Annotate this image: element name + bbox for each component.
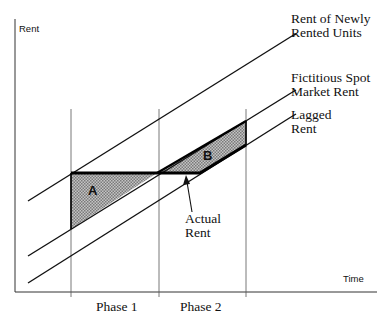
- spot-market-label-line2: Market Rent: [291, 85, 370, 99]
- lagged-rent-label-line1: Lagged: [291, 108, 331, 122]
- y-axis-label: Rent: [19, 24, 39, 34]
- rent-phases-diagram: Rent Time Rent of Newly Rented Units Fic…: [0, 0, 391, 326]
- actual-rent-label-line2: Rent: [185, 226, 221, 240]
- diagram-canvas: [0, 0, 391, 326]
- actual-rent-label: Actual Rent: [185, 212, 221, 240]
- phase-1-label: Phase 1: [96, 300, 138, 314]
- lagged-rent-label-line2: Rent: [291, 122, 331, 136]
- region-a-label: A: [88, 183, 97, 198]
- region-b-label: B: [203, 148, 212, 163]
- actual-rent-label-line1: Actual: [185, 212, 221, 226]
- newly-rented-label-line2: Rented Units: [291, 26, 370, 40]
- actual-rent-arrow: [187, 182, 192, 212]
- lagged-rent-label: Lagged Rent: [291, 108, 331, 136]
- spot-market-label-line1: Fictitious Spot: [291, 71, 370, 85]
- x-axis-label: Time: [343, 274, 364, 284]
- spot-market-label: Fictitious Spot Market Rent: [291, 71, 370, 99]
- phase-2-label: Phase 2: [180, 300, 222, 314]
- newly-rented-label: Rent of Newly Rented Units: [291, 12, 370, 40]
- lagged-rent-line: [28, 117, 291, 283]
- arrow-head-icon: [183, 175, 190, 185]
- newly-rented-label-line1: Rent of Newly: [291, 12, 370, 26]
- rent-newly-rented-line: [28, 36, 292, 201]
